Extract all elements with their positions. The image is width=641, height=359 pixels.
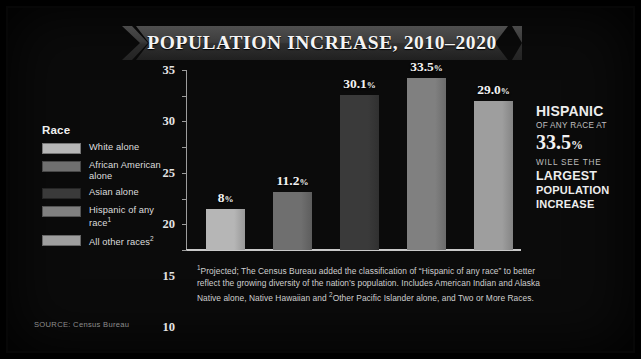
callout-increase: INCREASE	[536, 197, 632, 211]
bar[interactable]: 33.5%	[407, 70, 446, 250]
legend-item-superscript: 1	[108, 216, 112, 223]
callout-value-percent: %	[571, 138, 583, 152]
bar-rect	[407, 78, 446, 250]
legend: Race White aloneAfrican American aloneAs…	[42, 124, 174, 253]
bar[interactable]: 30.1%	[340, 70, 379, 250]
bar-value-label: 29.0%	[477, 82, 510, 98]
legend-swatch	[42, 235, 81, 246]
bar-value-number: 30.1	[343, 76, 367, 91]
bar-value-percent: %	[367, 80, 376, 90]
bar[interactable]: 29.0%	[474, 70, 513, 250]
bar-value-percent: %	[501, 86, 510, 96]
legend-item[interactable]: African American alone	[42, 160, 174, 182]
title-banner: POPULATION INCREASE, 2010–2020	[122, 26, 522, 60]
callout-value-number: 33.5	[536, 131, 571, 153]
bar-rect	[273, 192, 312, 250]
y-tick-mark: 5	[182, 224, 187, 225]
legend-swatch	[42, 188, 81, 199]
bar-rect	[340, 95, 379, 250]
legend-item-label: White alone	[89, 142, 139, 153]
bar-value-percent: %	[434, 63, 443, 73]
callout-will-see-the: WILL SEE THE	[536, 157, 632, 168]
source-note: SOURCE: Census Bureau	[34, 320, 129, 329]
legend-swatch	[42, 206, 81, 217]
y-tick-label: 25	[163, 165, 176, 180]
bar-rect	[206, 209, 245, 250]
chart-title: POPULATION INCREASE, 2010–2020	[122, 26, 522, 60]
callout-population: POPULATION	[536, 183, 632, 197]
y-tick-label: 10	[163, 320, 176, 335]
plot-area: 05101520253035 8%11.2%30.1%33.5%29.0%	[186, 70, 521, 250]
legend-item[interactable]: Asian alone	[42, 187, 174, 200]
y-tick-mark: 25	[182, 121, 187, 122]
callout-largest: LARGEST	[536, 169, 632, 183]
legend-item-superscript: 2	[150, 235, 154, 242]
footnote: 1Projected; The Census Bureau added the …	[197, 262, 555, 304]
y-axis-line	[186, 70, 187, 250]
legend-title: Race	[42, 124, 174, 136]
bar-value-number: 29.0	[477, 82, 501, 97]
legend-item-label: African American alone	[89, 160, 174, 182]
y-tick-mark: 15	[182, 173, 187, 174]
legend-item[interactable]: Hispanic of any race1	[42, 205, 174, 230]
bar-value-label: 8%	[218, 190, 234, 206]
footnote-text-2: Other Pacific Islander alone, and Two or…	[333, 293, 534, 303]
bar[interactable]: 8%	[206, 70, 245, 250]
y-tick-mark: 35	[182, 70, 187, 71]
y-tick-label: 30	[163, 114, 176, 129]
y-tick-mark: 10	[182, 199, 187, 200]
legend-item-label: All other races2	[89, 234, 154, 248]
bar-rect	[474, 101, 513, 250]
bar-value-number: 33.5	[410, 59, 434, 74]
legend-item[interactable]: White alone	[42, 142, 174, 155]
y-tick-label: 20	[163, 217, 176, 232]
legend-swatch	[42, 161, 81, 172]
bar-value-number: 8	[218, 190, 225, 205]
bar-value-label: 30.1%	[343, 76, 376, 92]
y-tick-label: 15	[163, 268, 176, 283]
y-tick-label: 35	[163, 63, 176, 78]
y-tick-mark: 0	[182, 250, 187, 251]
bar-value-percent: %	[299, 177, 308, 187]
infographic-root: POPULATION INCREASE, 2010–2020 Race Whit…	[0, 0, 641, 359]
callout-value: 33.5%	[536, 132, 632, 156]
bar-value-number: 11.2	[277, 173, 300, 188]
y-tick-mark: 20	[182, 147, 187, 148]
bar-value-percent: %	[224, 194, 233, 204]
legend-item[interactable]: All other races2	[42, 234, 174, 248]
bar-value-label: 33.5%	[410, 59, 443, 75]
bar[interactable]: 11.2%	[273, 70, 312, 250]
legend-swatch	[42, 143, 81, 154]
callout-hispanic: HISPANIC	[536, 104, 632, 119]
callout-any-race-at: OF ANY RACE AT	[536, 120, 632, 131]
legend-item-label: Hispanic of any race1	[89, 205, 174, 230]
callout-panel: HISPANIC OF ANY RACE AT 33.5% WILL SEE T…	[536, 104, 632, 211]
legend-item-label: Asian alone	[89, 187, 139, 198]
legend-items: White aloneAfrican American aloneAsian a…	[42, 142, 174, 248]
bar-value-label: 11.2%	[277, 173, 309, 189]
y-tick-mark: 30	[182, 96, 187, 97]
